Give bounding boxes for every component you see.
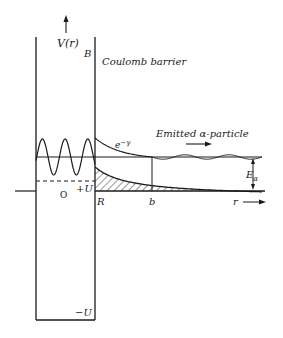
r-axis-arrow-head: [259, 200, 266, 205]
tunnel-factor-label: e−γ: [115, 139, 131, 150]
nuclear-radius-label: R: [96, 196, 105, 207]
emitted-alpha-label: Emitted α-particle: [155, 128, 249, 139]
r-axis-label: r: [233, 196, 239, 207]
plus-u-label: +U: [76, 183, 93, 194]
e-alpha-arrow-head-bottom: [251, 184, 255, 190]
v-axis-label: V(r): [57, 37, 79, 50]
alpha-decay-diagram: V(r) B Coulomb barrier e−γ Emitted α-par…: [0, 0, 283, 338]
coulomb-barrier-label: Coulomb barrier: [102, 56, 187, 67]
energy-label: Eα: [245, 169, 258, 183]
origin-label: O: [60, 189, 67, 200]
minus-u-label: −U: [75, 307, 92, 318]
barrier-top-label: B: [83, 48, 91, 59]
v-axis-arrow-head: [64, 15, 69, 22]
emitted-arrow-head: [205, 142, 212, 147]
turning-point-label: b: [149, 196, 155, 207]
